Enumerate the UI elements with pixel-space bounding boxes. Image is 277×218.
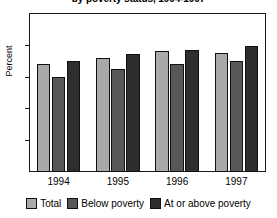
chart-title: by poverty status, 1994-1997 [0,0,277,4]
x-tick-label: 1997 [214,176,258,187]
x-tick-label: 1994 [37,176,81,187]
bar-group [29,13,88,172]
legend-swatch-icon [26,198,37,209]
bar [67,61,81,172]
bar-group [148,13,207,172]
bar [111,69,125,172]
bar [126,54,140,172]
legend-swatch-icon [67,198,78,209]
bar [185,50,199,172]
bar-chart-figure: by poverty status, 1994-1997 Percent 020… [0,0,277,218]
bar-group [207,13,266,172]
bar-group [88,13,147,172]
legend-label: Total [40,198,61,209]
bar [245,46,259,172]
legend-label: At or above poverty [164,198,251,209]
bar [170,64,184,172]
legend-item[interactable]: At or above poverty [150,198,251,209]
bar [96,58,110,172]
bars-layer [29,13,266,172]
chart-legend: TotalBelow povertyAt or above poverty [0,198,277,209]
legend-item[interactable]: Total [26,198,61,209]
bar [155,51,169,172]
bar [52,77,66,172]
legend-swatch-icon [150,198,161,209]
y-axis-title: Percent [4,21,14,101]
x-tick-label: 1996 [155,176,199,187]
bar [215,53,229,172]
legend-item[interactable]: Below poverty [67,198,144,209]
x-tick-label: 1995 [96,176,140,187]
bar [230,61,244,172]
bar [37,64,51,172]
legend-label: Below poverty [81,198,144,209]
